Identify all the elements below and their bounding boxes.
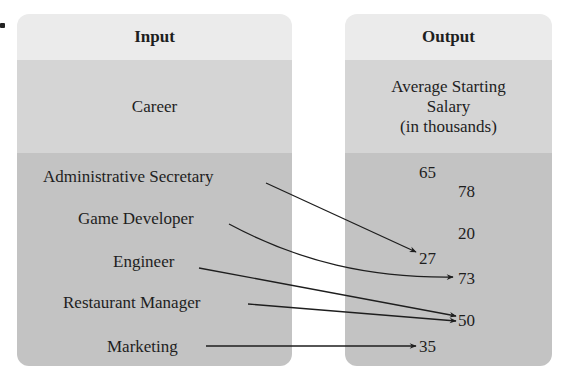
output-value-78: 78	[458, 182, 475, 202]
output-subheader-line-2: Salary	[391, 97, 505, 117]
bullet-marker	[0, 23, 5, 28]
output-value-73: 73	[458, 269, 475, 289]
input-item-game-developer: Game Developer	[78, 209, 194, 229]
output-subheader-line-3: (in thousands)	[391, 117, 505, 137]
input-header: Input	[17, 14, 292, 60]
input-item-engineer: Engineer	[113, 252, 174, 272]
output-subheader: Average Starting Salary (in thousands)	[345, 60, 552, 153]
output-value-65: 65	[419, 163, 436, 183]
input-item-administrative-secretary: Administrative Secretary	[43, 167, 213, 187]
output-value-27: 27	[419, 249, 436, 269]
output-values-area	[345, 153, 552, 366]
output-value-35: 35	[419, 337, 436, 357]
output-header: Output	[345, 14, 552, 60]
output-subheader-line-1: Average Starting	[391, 77, 505, 97]
input-item-restaurant-manager: Restaurant Manager	[63, 293, 200, 313]
input-subheader: Career	[17, 60, 292, 153]
input-item-marketing: Marketing	[107, 337, 178, 357]
output-value-20: 20	[458, 224, 475, 244]
output-value-50: 50	[458, 311, 475, 331]
output-panel: Output Average Starting Salary (in thous…	[345, 14, 552, 366]
input-panel: Input Career	[17, 14, 292, 366]
